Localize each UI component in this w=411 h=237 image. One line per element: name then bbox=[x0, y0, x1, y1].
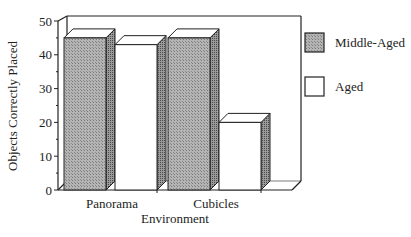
y-tick-label: 50 bbox=[39, 14, 52, 29]
y-tick-label: 40 bbox=[39, 47, 52, 62]
bar-aged-cubicles bbox=[219, 113, 270, 190]
legend-label: Middle-Aged bbox=[335, 35, 406, 50]
legend-swatch bbox=[305, 77, 324, 96]
y-axis-label: Objects Correctly Placed bbox=[5, 41, 20, 171]
bar-chart: 01020304050PanoramaCubicles Middle-AgedA… bbox=[0, 0, 411, 237]
x-tick-label-panorama: Panorama bbox=[86, 196, 138, 211]
y-tick-label: 30 bbox=[39, 81, 52, 96]
y-tick-label: 20 bbox=[39, 115, 52, 130]
legend-item-aged: Aged bbox=[305, 77, 364, 96]
chart-bars bbox=[64, 29, 270, 190]
bar-middle-aged-cubicles bbox=[168, 29, 219, 190]
chart-legend: Middle-AgedAged bbox=[305, 33, 406, 96]
y-tick-label: 0 bbox=[46, 183, 53, 198]
legend-swatch bbox=[305, 33, 324, 52]
legend-item-middle-aged: Middle-Aged bbox=[305, 33, 406, 52]
bar-aged-panorama bbox=[115, 36, 166, 190]
legend-label: Aged bbox=[335, 79, 364, 94]
y-tick-label: 10 bbox=[39, 149, 52, 164]
x-tick-label-cubicles: Cubicles bbox=[193, 196, 239, 211]
bar-middle-aged-panorama bbox=[64, 29, 115, 190]
x-axis-label: Environment bbox=[141, 211, 209, 226]
